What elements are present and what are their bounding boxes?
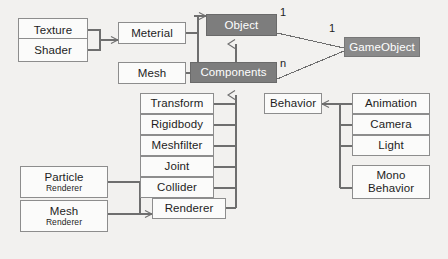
edge-object-gameobject	[277, 33, 344, 48]
node-rigidbody[interactable]: Rigidbody	[140, 114, 214, 135]
node-mono-behavior[interactable]: Mono Behavior	[352, 165, 430, 199]
node-camera[interactable]: Camera	[352, 114, 430, 135]
node-collider[interactable]: Collider	[140, 177, 214, 198]
node-renderer[interactable]: Renderer	[152, 198, 226, 219]
node-transform[interactable]: Transform	[140, 93, 214, 114]
class-diagram: Texture Shader Meterial Mesh Object Game…	[0, 0, 448, 259]
node-light-label: Light	[378, 139, 403, 152]
node-rigidbody-label: Rigidbody	[151, 118, 203, 131]
node-mesh-renderer-label-bottom: Renderer	[46, 218, 82, 227]
node-meterial[interactable]: Meterial	[118, 22, 186, 44]
multiplicity-gameobject: 1	[329, 22, 335, 34]
node-joint-label: Joint	[165, 160, 190, 173]
node-meshfilter[interactable]: Meshfilter	[140, 135, 214, 156]
node-joint[interactable]: Joint	[140, 156, 214, 177]
node-mono-behavior-label-top: Mono	[376, 169, 405, 182]
node-mesh-renderer-label-top: Mesh	[50, 205, 79, 218]
node-particle-renderer-label-bottom: Renderer	[46, 184, 82, 193]
node-shader-label: Shader	[34, 44, 72, 57]
node-gameobject[interactable]: GameObject	[344, 37, 420, 57]
node-animation-label: Animation	[365, 97, 417, 110]
node-object-label: Object	[225, 19, 259, 32]
multiplicity-object: 1	[280, 6, 286, 18]
edge-meterial-spine	[186, 16, 198, 33]
node-particle-renderer-label-top: Particle	[44, 171, 83, 184]
node-mesh[interactable]: Mesh	[118, 62, 186, 84]
node-animation[interactable]: Animation	[352, 93, 430, 114]
node-mesh-renderer[interactable]: Mesh Renderer	[20, 200, 108, 232]
node-renderer-label: Renderer	[165, 202, 214, 215]
node-meterial-label: Meterial	[131, 27, 173, 40]
node-meshfilter-label: Meshfilter	[152, 139, 203, 152]
node-mesh-label: Mesh	[138, 67, 167, 80]
node-object[interactable]: Object	[206, 14, 277, 36]
node-light[interactable]: Light	[352, 135, 430, 156]
node-collider-label: Collider	[157, 181, 197, 194]
edge-texture-shader-join	[88, 30, 100, 50]
node-components-label: Components	[200, 66, 266, 79]
node-behavior[interactable]: Behavior	[264, 93, 322, 114]
node-particle-renderer[interactable]: Particle Renderer	[20, 166, 108, 198]
node-transform-label: Transform	[151, 97, 204, 110]
node-camera-label: Camera	[370, 118, 412, 131]
node-mono-behavior-label-bottom: Behavior	[368, 182, 414, 195]
node-gameobject-label: GameObject	[349, 41, 415, 54]
node-shader[interactable]: Shader	[18, 38, 88, 62]
multiplicity-components: n	[280, 57, 286, 69]
node-texture-label: Texture	[34, 24, 72, 37]
edge-particle-renderer-join	[108, 182, 140, 214]
node-behavior-label: Behavior	[270, 97, 316, 110]
edge-components-gameobject	[277, 51, 344, 79]
node-components[interactable]: Components	[190, 62, 277, 83]
